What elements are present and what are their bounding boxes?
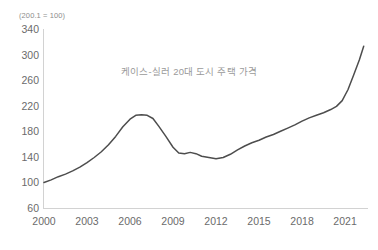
chart-title: 케이스-실러 20대 도시 주택 가격: [0, 64, 378, 78]
chart-container: (200.1 = 100) 34030026022018014010060 20…: [0, 0, 378, 250]
series-line-case-shiller: [0, 0, 378, 250]
